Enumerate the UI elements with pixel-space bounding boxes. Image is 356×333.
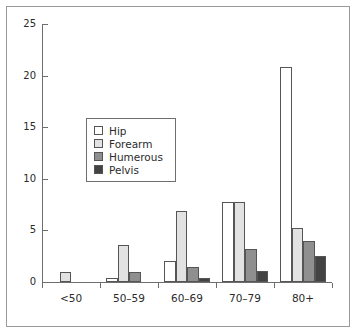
legend-label: Humerous: [109, 151, 163, 163]
bar-pelvis-4: [315, 256, 327, 282]
y-tick-label: 10: [8, 174, 36, 184]
legend-label: Forearm: [109, 138, 152, 150]
y-tick-label: 20: [8, 71, 36, 81]
bar-humerous-1: [129, 272, 141, 282]
x-tick-mark: [158, 283, 159, 288]
bar-forearm-0: [60, 272, 72, 282]
x-tick-mark: [216, 283, 217, 288]
bar-pelvis-2: [199, 278, 211, 282]
legend-item-humerous[interactable]: Humerous: [94, 150, 163, 163]
bar-forearm-3: [234, 202, 246, 282]
bar-forearm-2: [176, 211, 188, 282]
legend-swatch-icon: [94, 126, 103, 135]
x-category-label: 60–69: [158, 292, 216, 304]
x-category-label: <50: [42, 292, 100, 304]
y-tick-label-wrap: 10: [6, 174, 36, 184]
chart-figure: 0510152025 <5050–5960–6970–7980+ HipFore…: [0, 0, 356, 333]
y-tick-label-wrap: 20: [6, 71, 36, 81]
legend-label: Pelvis: [109, 164, 139, 176]
chart-legend: HipForearmHumerousPelvis: [86, 118, 176, 182]
x-tick-mark: [332, 283, 333, 288]
x-category-label: 50–59: [100, 292, 158, 304]
bar-humerous-2: [187, 267, 199, 282]
bar-hip-2: [164, 261, 176, 282]
x-category-label: 80+: [274, 292, 332, 304]
y-tick-label-wrap: 25: [6, 19, 36, 29]
x-axis-line: [42, 282, 332, 283]
y-tick-label: 15: [8, 122, 36, 132]
y-tick-label: 0: [8, 277, 36, 287]
y-tick-label: 5: [8, 225, 36, 235]
y-tick-label-wrap: 15: [6, 122, 36, 132]
bar-forearm-1: [118, 245, 130, 282]
y-tick-label-wrap: 5: [6, 225, 36, 235]
x-category-label: 70–79: [216, 292, 274, 304]
legend-swatch-icon: [94, 139, 103, 148]
legend-label: Hip: [109, 125, 126, 137]
y-tick-label-wrap: 0: [6, 277, 36, 287]
legend-item-pelvis[interactable]: Pelvis: [94, 163, 163, 176]
legend-item-hip[interactable]: Hip: [94, 124, 163, 137]
bar-pelvis-3: [257, 271, 269, 282]
x-tick-mark: [100, 283, 101, 288]
bar-hip-3: [222, 202, 234, 282]
x-tick-mark: [42, 283, 43, 288]
y-tick-mark: [43, 282, 48, 283]
bar-forearm-4: [292, 228, 304, 282]
legend-item-forearm[interactable]: Forearm: [94, 137, 163, 150]
legend-swatch-icon: [94, 152, 103, 161]
bar-hip-1: [106, 278, 118, 282]
legend-swatch-icon: [94, 165, 103, 174]
bar-hip-4: [280, 67, 292, 282]
x-tick-mark: [274, 283, 275, 288]
bar-humerous-4: [303, 241, 315, 282]
y-tick-label: 25: [8, 19, 36, 29]
bar-humerous-3: [245, 249, 257, 282]
